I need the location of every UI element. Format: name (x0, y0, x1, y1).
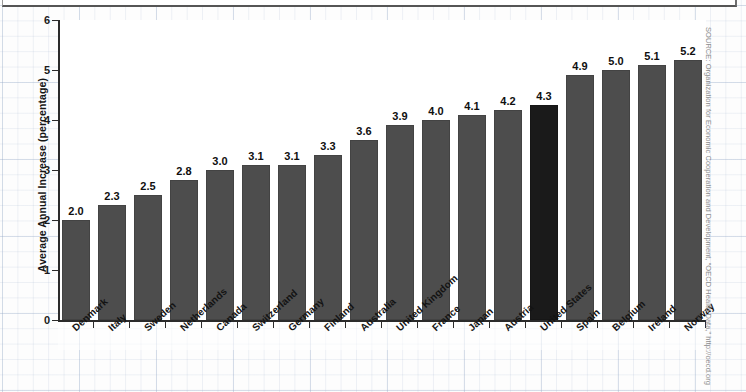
bar (530, 105, 559, 320)
bar-value-label: 4.2 (488, 96, 529, 107)
x-tick-mark (489, 322, 490, 328)
y-tick-label: 0 (20, 315, 50, 326)
bar (350, 140, 379, 320)
x-tick-mark (165, 322, 166, 328)
chart-page: Average Annual Increase (percentage) 012… (0, 0, 746, 392)
bar (62, 220, 91, 320)
bar (674, 60, 703, 320)
bar-value-label: 3.3 (308, 141, 349, 152)
bar-value-label: 4.9 (560, 61, 601, 72)
y-tick-mark (52, 220, 60, 221)
x-tick-mark (597, 322, 598, 328)
bar-value-label: 3.1 (236, 151, 277, 162)
bar-value-label: 3.0 (200, 156, 241, 167)
bar (566, 75, 595, 320)
x-tick-mark (309, 322, 310, 328)
bar-value-label: 5.2 (668, 46, 709, 57)
bar-value-label: 2.0 (56, 206, 97, 217)
x-tick-mark (633, 322, 634, 328)
y-tick-label: 1 (20, 265, 50, 276)
y-tick-mark (52, 70, 60, 71)
bar-value-label: 2.5 (128, 181, 169, 192)
x-tick-mark (273, 322, 274, 328)
x-tick-mark (129, 322, 130, 328)
bar (134, 195, 163, 320)
x-tick-mark (93, 322, 94, 328)
y-tick-label: 2 (20, 215, 50, 226)
bar-value-label: 3.1 (272, 151, 313, 162)
bar-value-label: 2.3 (92, 191, 133, 202)
title-box-bottom-edge (2, 0, 737, 7)
bar-value-label: 3.6 (344, 126, 385, 137)
bar (602, 70, 631, 320)
y-tick-label: 6 (20, 15, 50, 26)
y-tick-mark (52, 120, 60, 121)
bar-value-label: 3.9 (380, 111, 421, 122)
bar (242, 165, 271, 320)
y-tick-label: 4 (20, 115, 50, 126)
x-tick-mark (525, 322, 526, 328)
bar (638, 65, 667, 320)
bar-value-label: 4.3 (524, 91, 565, 102)
y-tick-label: 3 (20, 165, 50, 176)
bar (386, 125, 415, 320)
bars-layer: 2.02.32.52.83.03.13.13.33.63.94.04.14.24… (60, 20, 706, 320)
bar (458, 115, 487, 320)
x-tick-mark (237, 322, 238, 328)
x-tick-mark (417, 322, 418, 328)
y-tick-mark (52, 270, 60, 271)
bar (494, 110, 523, 320)
bar (170, 180, 199, 320)
y-tick-label: 5 (20, 65, 50, 76)
bar-value-label: 4.1 (452, 101, 493, 112)
y-tick-mark (52, 170, 60, 171)
bar-chart: Average Annual Increase (percentage) 012… (0, 9, 746, 392)
x-tick-mark (669, 322, 670, 328)
y-tick-mark (52, 320, 60, 321)
x-tick-mark (453, 322, 454, 328)
bar-value-label: 2.8 (164, 166, 205, 177)
x-tick-mark (561, 322, 562, 328)
bar-value-label: 5.1 (632, 51, 673, 62)
source-note: SOURCE: Organization for Economic Cooper… (704, 27, 713, 367)
bar-value-label: 4.0 (416, 106, 457, 117)
x-tick-mark (345, 322, 346, 328)
x-tick-mark (381, 322, 382, 328)
y-tick-mark (52, 20, 60, 21)
x-tick-mark (201, 322, 202, 328)
bar-value-label: 5.0 (596, 56, 637, 67)
